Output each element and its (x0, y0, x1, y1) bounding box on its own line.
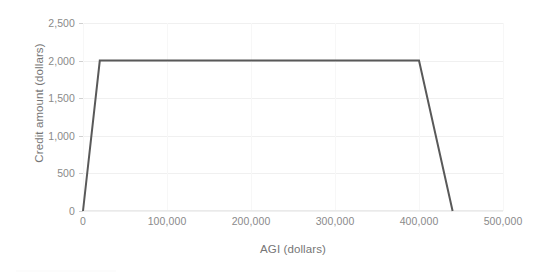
credit-amount-line-series (83, 23, 503, 211)
x-tick-label-5: 500,000 (458, 215, 536, 227)
y-axis-tick-labels: 05001,0001,5002,0002,500 (29, 23, 75, 211)
y-tick-label-2: 1,000 (29, 130, 75, 142)
x-tick-label-3: 300,000 (290, 215, 380, 227)
y-tick-label-1: 500 (29, 167, 75, 179)
plot-area (83, 23, 503, 211)
gridline-y-0 (83, 211, 503, 212)
x-tick-label-4: 400,000 (374, 215, 464, 227)
x-axis-tick-labels: 0100,000200,000300,000400,000500,000 (83, 215, 503, 233)
series-polyline (83, 61, 453, 211)
x-tick-label-2: 200,000 (206, 215, 296, 227)
y-tick-label-5: 2,500 (29, 17, 75, 29)
gridline-x-5 (503, 23, 504, 211)
y-tick-label-4: 2,000 (29, 55, 75, 67)
x-axis-title: AGI (dollars) (83, 243, 503, 255)
x-tick-label-0: 0 (38, 215, 128, 227)
bottom-divider (16, 270, 116, 272)
y-tick-label-3: 1,500 (29, 92, 75, 104)
chart-container: Credit amount (dollars) 05001,0001,5002,… (0, 0, 536, 279)
x-tick-label-1: 100,000 (122, 215, 212, 227)
